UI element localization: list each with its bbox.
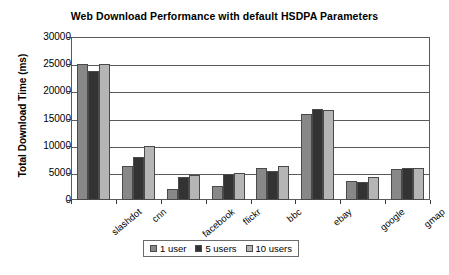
y-tick-label: 20000 xyxy=(25,86,71,96)
legend-swatch-icon xyxy=(246,245,253,252)
bars-layer xyxy=(71,37,430,200)
x-tick-mark xyxy=(430,200,431,204)
bar xyxy=(357,182,368,200)
bar xyxy=(122,166,133,200)
legend-swatch-icon xyxy=(195,245,202,252)
bar xyxy=(256,168,267,200)
chart-legend: 1 user5 users10 users xyxy=(143,240,299,257)
bar xyxy=(234,173,245,200)
bar xyxy=(368,177,379,200)
bar xyxy=(99,64,110,200)
x-tick-mark xyxy=(206,200,207,204)
bar xyxy=(312,109,323,200)
y-axis: 050001000015000200002500030000 xyxy=(0,0,71,275)
bar xyxy=(144,146,155,200)
bar-group xyxy=(116,37,161,200)
y-tick-label: 25000 xyxy=(25,59,71,69)
x-tick-label: ebay xyxy=(331,206,354,228)
x-tick-label: slashdot xyxy=(110,206,144,237)
x-tick-label: gmap xyxy=(421,206,446,230)
bar-group xyxy=(340,37,385,200)
bar xyxy=(77,64,88,200)
y-tick-label: 5000 xyxy=(25,168,71,178)
bar xyxy=(212,186,223,200)
bar xyxy=(167,189,178,200)
x-tick-mark xyxy=(251,200,252,204)
bar-group xyxy=(385,37,430,200)
y-tick-label: 30000 xyxy=(25,32,71,42)
x-tick-label: facebook xyxy=(200,206,237,239)
legend-item: 10 users xyxy=(246,243,292,254)
x-tick-label: cnn xyxy=(150,206,169,224)
bar xyxy=(178,177,189,200)
bar xyxy=(413,168,424,200)
bar-group xyxy=(251,37,296,200)
x-tick-mark xyxy=(385,200,386,204)
legend-swatch-icon xyxy=(150,245,157,252)
bar xyxy=(223,174,234,200)
bar-group xyxy=(71,37,116,200)
bar xyxy=(133,157,144,200)
bar xyxy=(189,175,200,200)
x-tick-mark xyxy=(340,200,341,204)
bar-group xyxy=(295,37,340,200)
bar-group xyxy=(161,37,206,200)
bar xyxy=(267,171,278,200)
bar xyxy=(346,181,357,200)
x-tick-mark xyxy=(161,200,162,204)
legend-label: 10 users xyxy=(256,243,292,254)
y-tick-label: 0 xyxy=(25,195,71,205)
y-tick-label: 10000 xyxy=(25,141,71,151)
bar xyxy=(323,110,334,200)
x-tick-label: flickr xyxy=(241,206,263,227)
y-tick-label: 15000 xyxy=(25,114,71,124)
legend-label: 5 users xyxy=(205,243,236,254)
bar xyxy=(278,166,289,200)
bar-group xyxy=(206,37,251,200)
bar xyxy=(402,168,413,200)
legend-label: 1 user xyxy=(160,243,186,254)
legend-item: 5 users xyxy=(195,243,236,254)
legend-item: 1 user xyxy=(150,243,186,254)
x-tick-mark xyxy=(71,200,72,204)
x-tick-mark xyxy=(116,200,117,204)
x-tick-label: google xyxy=(377,206,406,233)
x-tick-label: bbc xyxy=(285,206,304,224)
bar xyxy=(88,71,99,200)
x-tick-mark xyxy=(295,200,296,204)
bar xyxy=(301,114,312,200)
bar xyxy=(391,169,402,200)
bar-chart: Web Download Performance with default HS… xyxy=(0,0,449,275)
